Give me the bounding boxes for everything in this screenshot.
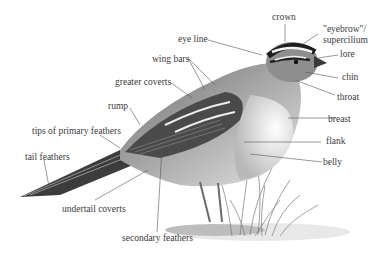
label-breast: breast — [328, 114, 351, 125]
label-greater-coverts: greater coverts — [115, 77, 171, 88]
label-rump: rump — [108, 101, 128, 112]
label-belly: belly — [323, 157, 342, 168]
label-undertail-coverts: undertail coverts — [62, 204, 126, 215]
label-tail-feathers: tail feathers — [25, 152, 70, 163]
label-secondary-feathers: secondary feathers — [122, 233, 193, 244]
label-supercilium: supercilium — [323, 35, 368, 46]
label-chin: chin — [342, 72, 358, 83]
label-flank: flank — [326, 136, 346, 147]
bird-anatomy-diagram: crown "eyebrow"/ supercilium lore chin t… — [0, 0, 385, 258]
label-crown: crown — [272, 12, 296, 23]
label-eye-line: eye line — [178, 34, 208, 45]
label-eyebrow: "eyebrow"/ — [323, 24, 366, 35]
label-throat: throat — [337, 92, 359, 103]
label-lore: lore — [340, 49, 355, 60]
label-wing-bars: wing bars — [152, 54, 189, 65]
label-tips-of-primary-feathers: tips of primary feathers — [32, 126, 121, 137]
